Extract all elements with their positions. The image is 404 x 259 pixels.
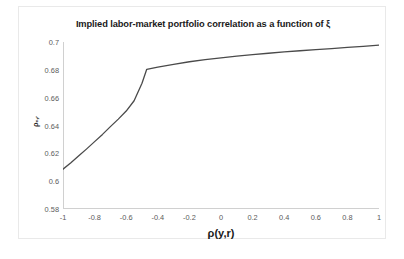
y-tick-label: 0.7	[19, 38, 59, 47]
data-series-line	[63, 45, 379, 169]
x-tick-label: 1	[356, 213, 402, 222]
y-tick-label: 0.6	[19, 177, 59, 186]
chart-title: Implied labor-market portfolio correlati…	[19, 19, 387, 29]
x-axis-label: ρ(y,r)	[63, 227, 379, 239]
x-axis-ticks: -1-0.8-0.6-0.4-0.200.20.40.60.81	[63, 213, 379, 225]
line-chart-svg	[63, 42, 379, 209]
plot-area	[63, 42, 379, 209]
y-tick-label: 0.64	[19, 121, 59, 130]
y-tick-label: 0.66	[19, 93, 59, 102]
y-tick-label: 0.68	[19, 65, 59, 74]
chart-card: Implied labor-market portfolio correlati…	[18, 6, 386, 239]
y-axis-ticks: 0.580.60.620.640.660.680.7	[19, 42, 59, 209]
y-tick-label: 0.62	[19, 149, 59, 158]
